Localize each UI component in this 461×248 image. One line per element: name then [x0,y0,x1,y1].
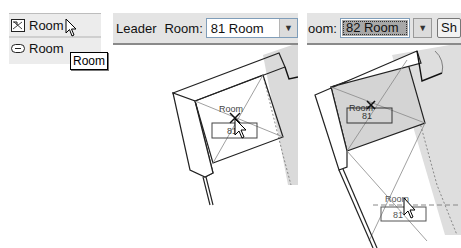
leader-label: Leader [116,21,156,36]
plan-view-right[interactable]: Room 81 Room 81 [307,45,461,248]
room-select-value: 82 Room [342,20,408,36]
room-select-value: 81 Room [207,21,279,36]
room-tag-menu-item[interactable]: Room [11,38,64,58]
moving-tag-number: 81 [393,210,403,220]
room-menu-item[interactable]: Room [11,15,64,35]
room-tag-name: Room [219,104,243,114]
chevron-down-icon[interactable]: ▼ [279,19,297,37]
room-label: Room: [164,21,202,36]
room-label: oom: [308,21,337,36]
adjacent-room-fill [263,45,298,185]
room-menu-panel: Room Room Room [9,13,101,64]
room-select[interactable]: 82 Room [340,18,410,38]
room-select[interactable]: 81 Room ▼ [206,18,298,38]
mouse-cursor-icon [65,18,79,38]
room-tag-icon [11,42,25,55]
options-bar-right: oom: 82 Room ▼ Sh [307,13,461,45]
plan-view-middle[interactable]: Room 81 [113,45,298,248]
placed-tag-number: 81 [362,111,372,121]
show-button[interactable]: Sh [437,18,461,38]
chevron-down-icon[interactable]: ▼ [414,19,431,37]
tooltip: Room [70,52,108,70]
room-icon [11,19,25,32]
room-select-dropdown[interactable]: ▼ [413,18,432,38]
mouse-cursor-icon [404,198,415,218]
options-bar: Leader Room: 81 Room ▼ [113,13,298,45]
room-menu-label: Room [29,18,64,33]
room-tag-menu-label: Room [29,41,64,56]
